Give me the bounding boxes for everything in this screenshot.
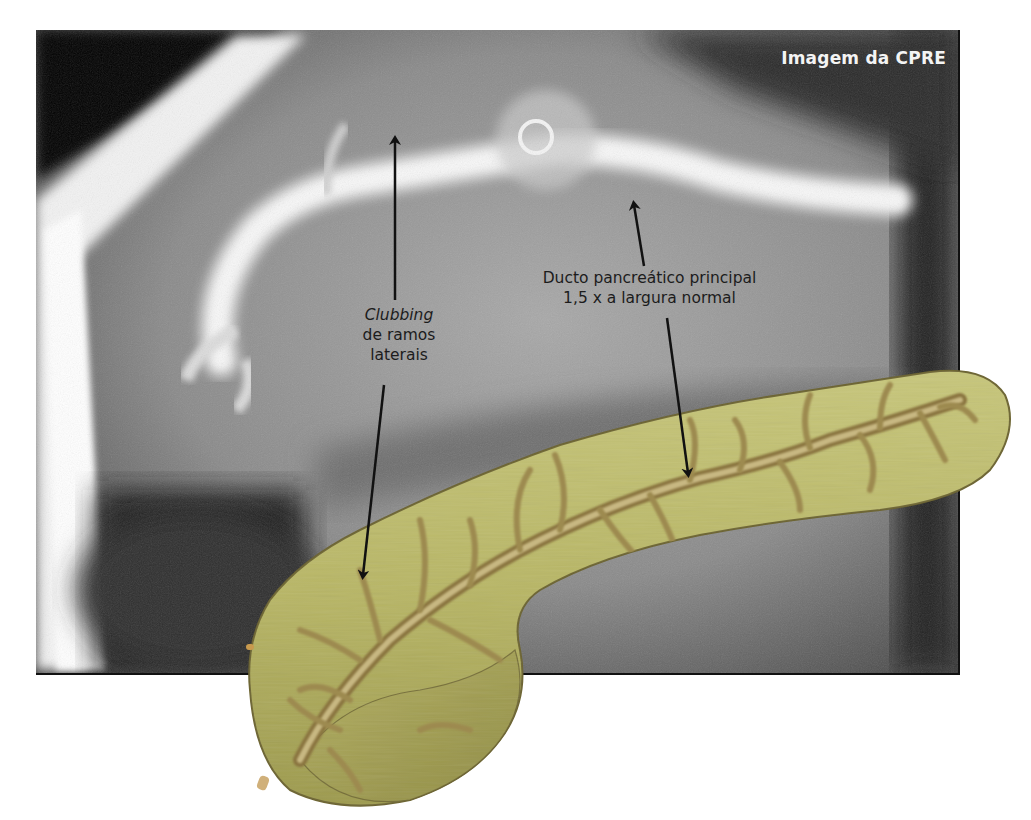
annotation-arrows [0, 0, 1031, 820]
label-clubbing-italic: Clubbing [365, 306, 434, 324]
arrow-duct-down [667, 318, 688, 473]
label-clubbing-line2: de ramos [350, 325, 448, 345]
label-main-pancreatic-duct: Ducto pancreático principal 1,5 x a larg… [527, 268, 772, 308]
label-duct-line2: 1,5 x a largura normal [527, 288, 772, 308]
label-clubbing-side-branches: Clubbing de ramos laterais [350, 305, 448, 365]
arrow-duct-up [634, 205, 644, 266]
arrow-clubbing-down [363, 385, 384, 575]
figure: Imagem da CPRE [0, 0, 1031, 820]
label-duct-line1: Ducto pancreático principal [527, 268, 772, 288]
label-clubbing-line3: laterais [350, 345, 448, 365]
